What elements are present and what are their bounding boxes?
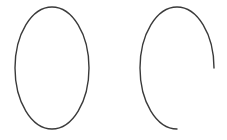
background [0, 0, 227, 140]
diagram-canvas [0, 0, 227, 140]
